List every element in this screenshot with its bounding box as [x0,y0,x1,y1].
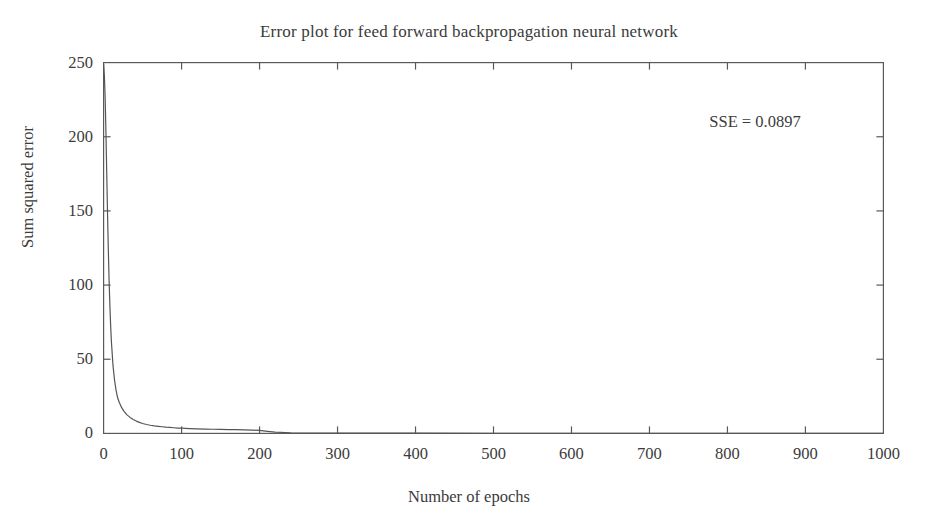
x-tick-label: 200 [247,444,272,464]
x-tick-label: 100 [169,444,194,464]
y-tick-label: 200 [31,127,93,147]
sse-annotation: SSE = 0.0897 [660,112,850,132]
y-tick-label: 150 [31,201,93,221]
figure-canvas: Error plot for feed forward backpropagat… [0,0,938,530]
x-tick-label: 600 [559,444,584,464]
x-tick-label: 300 [325,444,350,464]
page-title: Error plot for feed forward backpropagat… [0,22,938,42]
x-tick-label: 500 [481,444,506,464]
x-tick-label: 900 [793,444,818,464]
x-axis-title: Number of epochs [0,487,938,507]
y-tick-label: 0 [31,423,93,443]
x-tick-label: 800 [715,444,740,464]
x-tick-label: 0 [99,444,107,464]
x-tick-label: 1000 [867,444,900,464]
x-tick-label: 700 [637,444,662,464]
y-axis-title: Sum squared error [18,126,38,248]
y-tick-label: 250 [31,53,93,73]
y-tick-label: 100 [31,275,93,295]
y-tick-label: 50 [31,349,93,369]
x-tick-label: 400 [403,444,428,464]
